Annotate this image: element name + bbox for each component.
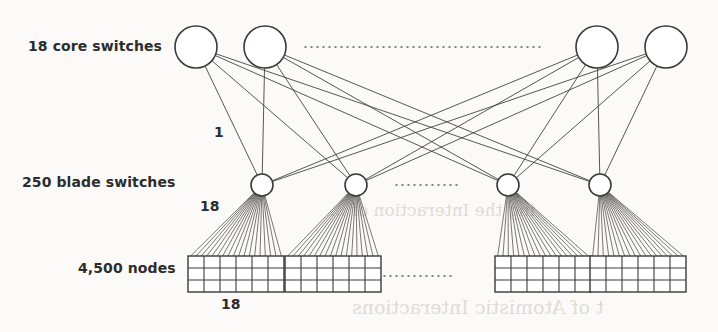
core-blade-link-c1-b0 [262,68,264,174]
blade-node-cable-b2-15 [516,193,578,256]
core-blade-link-c3-b3 [605,66,657,175]
blade-node-cable-b1-6 [320,195,351,256]
blade-node-cable-b1-17 [359,195,378,256]
core-blade-link-c2-b1 [366,57,579,179]
core-switch-3[interactable] [645,26,687,68]
blade-node-cable-b0-14 [263,196,266,256]
core-switch-1[interactable] [244,26,286,68]
blade-node-cable-b3-11 [606,194,651,256]
core-blade-link-c2-b3 [597,68,599,174]
blade-node-cable-b2-10 [514,194,551,256]
core-blade-link-c0-b2 [215,55,498,180]
blade-node-cable-b1-1 [293,193,349,256]
node-grid-2 [495,256,591,292]
core-blade-link-c0-b1 [212,61,348,178]
blade-switch-0[interactable] [251,174,273,196]
blade-switch-1[interactable] [345,174,367,196]
blade-tier-label: 250 blade switches [22,174,175,190]
blade-node-cable-b3-2 [601,196,604,256]
blade-node-cable-b3-13 [607,193,662,256]
core-tier-label: 18 core switches [28,38,162,54]
nodes-tier-label: 4,500 nodes [78,260,176,276]
node-grid-3 [590,256,686,292]
node-grid-1 [285,256,381,292]
core-blade-link-c3-b2 [516,61,650,178]
blade-node-cable-b1-0 [288,193,349,256]
core-switch-0[interactable] [175,26,217,68]
core-blade-link-c1-b2 [283,57,498,179]
blade-to-node-fan-group [191,192,684,256]
core-to-blade-link-group [205,54,657,182]
node-grid-0 [188,256,284,292]
blade-node-cable-b3-12 [607,194,657,256]
blade-node-cable-b3-16 [608,192,678,256]
blade-switch-group [251,174,611,196]
blade-node-cable-b2-14 [515,193,572,256]
blade-node-cable-b3-8 [605,195,635,256]
node-grid-width-label: 18 [221,296,240,312]
blade-switch-2[interactable] [497,174,519,196]
core-blade-link-c0-b0 [205,66,257,175]
core-blade-link-c3-b1 [366,56,647,181]
core-blade-link-c2-b2 [514,65,586,176]
blade-node-cable-b1-13 [356,196,357,256]
diagram-canvas: ing the Interaction of ... t of Atomisti… [0,0,718,332]
uplink-cable-count-label: 1 [214,124,224,140]
node-grid-group [188,256,686,292]
blade-node-cable-b0-16 [264,196,276,256]
blade-fanout-count-label: 18 [200,198,219,214]
blade-node-cable-b2-12 [515,194,562,256]
blade-switch-3[interactable] [589,174,611,196]
blade-node-cable-b2-7 [512,195,535,256]
core-switch-2[interactable] [576,26,618,68]
